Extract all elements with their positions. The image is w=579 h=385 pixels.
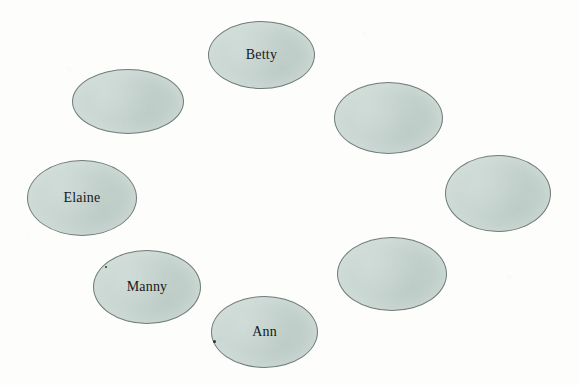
ellipse-node-empty-4[interactable] [445, 155, 551, 232]
ellipse-node-empty-6[interactable] [337, 237, 447, 311]
node-label: Elaine [64, 190, 101, 206]
ellipse-node-empty-2[interactable] [334, 82, 443, 154]
ellipse-node-empty-1[interactable] [72, 69, 184, 134]
ellipse-node-manny[interactable]: Manny [93, 250, 201, 324]
ink-speck [213, 340, 216, 343]
node-label: Manny [127, 279, 168, 295]
ellipse-node-elaine[interactable]: Elaine [27, 160, 137, 236]
node-label: Betty [246, 47, 277, 63]
ellipse-node-betty[interactable]: Betty [208, 21, 315, 89]
diagram-canvas: BettyElaineMannyAnn [0, 0, 579, 385]
ellipse-node-ann[interactable]: Ann [211, 296, 318, 368]
ink-speck [105, 266, 107, 268]
node-label: Ann [252, 324, 277, 340]
